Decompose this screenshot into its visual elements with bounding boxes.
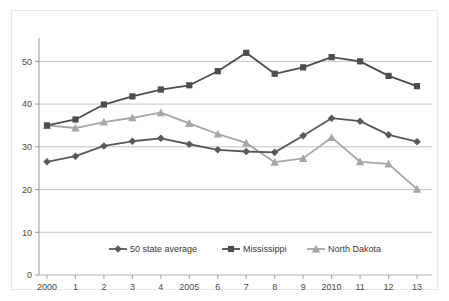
- datapoint-mississippi-1: [72, 116, 78, 122]
- x-tick-label-9: 9: [301, 282, 306, 292]
- datapoint-mississippi-11: [357, 58, 363, 64]
- x-tick-label-2000: 2000: [37, 282, 57, 292]
- legend-marker-mississippi: [228, 246, 234, 252]
- x-tick-label-3: 3: [130, 282, 135, 292]
- legend-label-50-state-average: 50 state average: [130, 244, 197, 254]
- y-tick-label-10: 10: [22, 228, 32, 238]
- x-tick-label-7: 7: [244, 282, 249, 292]
- datapoint-mississippi-4: [158, 86, 164, 92]
- x-tick-label-2005: 2005: [179, 282, 199, 292]
- datapoint-mississippi-2000: [44, 122, 50, 128]
- x-tick-label-4: 4: [158, 282, 163, 292]
- datapoint-mississippi-2: [101, 101, 107, 107]
- datapoint-50-state-average-8: [271, 149, 279, 157]
- datapoint-mississippi-12: [385, 73, 391, 79]
- legend: 50 state averageMississippiNorth Dakota: [109, 244, 381, 254]
- y-axis: 01020304050: [22, 38, 39, 280]
- legend-label-mississippi: Mississippi: [243, 244, 287, 254]
- legend-item-north-dakota[interactable]: North Dakota: [307, 244, 381, 254]
- datapoint-50-state-average-7: [242, 148, 250, 156]
- legend-marker-50-state-average: [114, 245, 122, 253]
- gridlines: [39, 61, 432, 275]
- datapoint-mississippi-8: [272, 71, 278, 77]
- legend-item-mississippi[interactable]: Mississippi: [222, 244, 287, 254]
- datapoint-mississippi-3: [129, 93, 135, 99]
- x-tick-label-2: 2: [101, 282, 106, 292]
- datapoint-50-state-average-12: [385, 131, 393, 139]
- datapoint-50-state-average-2000: [43, 158, 51, 166]
- x-tick-label-8: 8: [272, 282, 277, 292]
- x-tick-label-1: 1: [73, 282, 78, 292]
- x-tick-label-11: 11: [355, 282, 364, 292]
- datapoint-50-state-average-1: [72, 152, 80, 160]
- datapoint-mississippi-2010: [329, 54, 335, 60]
- datapoint-mississippi-7: [243, 50, 249, 56]
- datapoint-50-state-average-13: [413, 138, 421, 146]
- x-axis: 20001234200567892010111213: [37, 275, 422, 292]
- x-tick-label-6: 6: [215, 282, 220, 292]
- y-tick-label-0: 0: [27, 270, 32, 280]
- legend-label-north-dakota: North Dakota: [328, 244, 381, 254]
- legend-item-50-state-average[interactable]: 50 state average: [109, 244, 197, 254]
- y-tick-label-30: 30: [22, 142, 32, 152]
- datapoint-50-state-average-2: [100, 142, 108, 150]
- datapoint-50-state-average-11: [356, 117, 364, 125]
- datapoint-mississippi-6: [215, 68, 221, 74]
- datapoint-50-state-average-3: [129, 137, 137, 145]
- y-tick-label-50: 50: [22, 57, 32, 67]
- x-tick-label-12: 12: [384, 282, 394, 292]
- datapoint-50-state-average-4: [157, 134, 165, 142]
- y-tick-label-20: 20: [22, 185, 32, 195]
- datapoint-mississippi-13: [414, 83, 420, 89]
- line-chart: 010203040502000123420056789201011121350 …: [0, 0, 449, 301]
- datapoint-mississippi-2005: [186, 82, 192, 88]
- x-tick-label-13: 13: [412, 282, 422, 292]
- y-tick-label-40: 40: [22, 99, 32, 109]
- datapoint-mississippi-9: [300, 64, 306, 70]
- datapoint-north-dakota-2010: [327, 133, 335, 141]
- chart-container: 010203040502000123420056789201011121350 …: [0, 0, 449, 301]
- x-tick-label-2010: 2010: [322, 282, 342, 292]
